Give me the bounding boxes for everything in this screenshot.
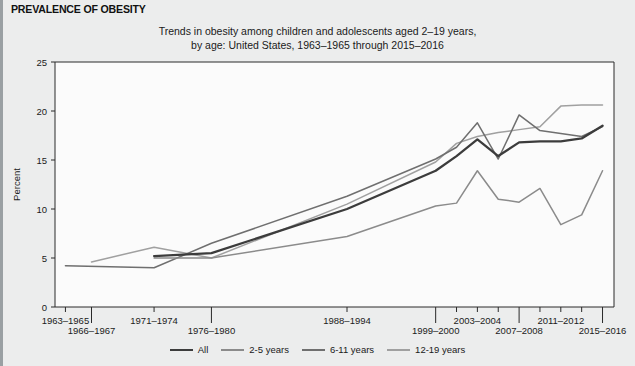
x-tick-label: 1966–1967 — [68, 325, 116, 336]
y-tick-label: 5 — [42, 253, 47, 264]
chart-plot: 0510152025Percent1963–19651971–19741988–… — [0, 0, 635, 344]
y-tick-label: 15 — [36, 155, 47, 166]
x-tick-label: 2007–2008 — [495, 325, 543, 336]
legend-item-all[interactable]: All — [170, 344, 209, 355]
y-tick-label: 10 — [36, 204, 47, 215]
legend-label: 2-5 years — [249, 344, 289, 355]
legend-item-6-11-years[interactable]: 6-11 years — [302, 344, 374, 355]
x-tick-label: 2003–2004 — [454, 315, 502, 326]
y-tick-label: 25 — [36, 57, 47, 68]
legend-label: 6-11 years — [330, 344, 374, 355]
x-tick-label: 1976–1980 — [188, 325, 236, 336]
legend-swatch — [302, 349, 325, 351]
x-tick-label: 1971–1974 — [130, 315, 178, 326]
plot-frame — [55, 62, 614, 307]
legend-label: 12-19 years — [415, 344, 465, 355]
x-tick-label: 2015–2016 — [579, 325, 627, 336]
legend-swatch — [221, 349, 244, 351]
legend-item-12-19-years[interactable]: 12-19 years — [387, 344, 465, 355]
y-axis-label: Percent — [11, 168, 22, 201]
legend-label: All — [198, 344, 209, 355]
x-tick-label: 1988–1994 — [323, 315, 371, 326]
y-tick-label: 20 — [36, 106, 47, 117]
legend-swatch — [387, 349, 410, 351]
chart-legend: All2-5 years6-11 years12-19 years — [0, 344, 635, 355]
chart-page: PREVALENCE OF OBESITY Trends in obesity … — [0, 0, 635, 366]
y-tick-label: 0 — [42, 302, 47, 313]
x-tick-label: 2011–2012 — [537, 315, 584, 326]
legend-item-2-5-years[interactable]: 2-5 years — [221, 344, 289, 355]
legend-swatch — [170, 349, 193, 351]
x-tick-label: 1999–2000 — [412, 325, 460, 336]
